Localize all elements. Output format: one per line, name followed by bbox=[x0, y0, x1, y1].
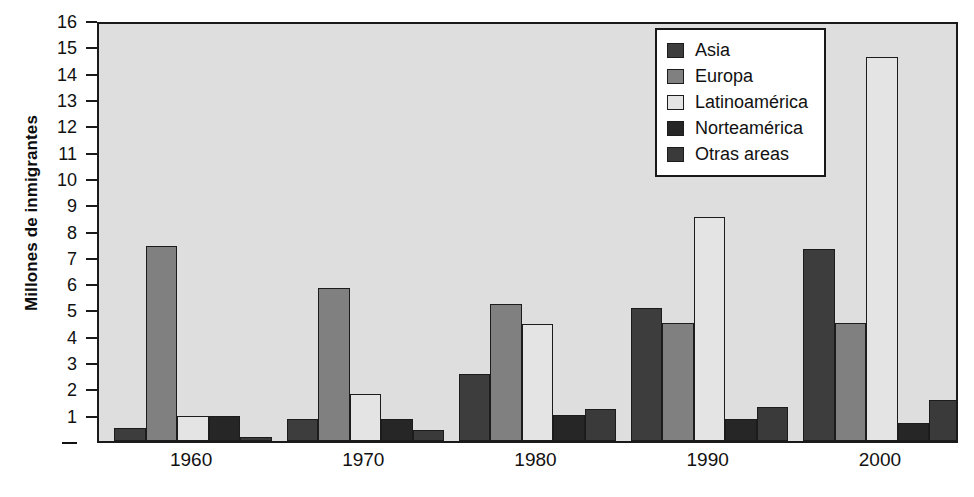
y-tick-label: 9 bbox=[67, 196, 77, 216]
y-tick-mark bbox=[86, 74, 97, 76]
legend-swatch-icon bbox=[667, 121, 684, 136]
legend-item: Otras areas bbox=[667, 141, 808, 167]
legend-item: Norteamérica bbox=[667, 115, 808, 141]
legend-swatch-icon bbox=[667, 147, 684, 162]
y-tick-mark bbox=[86, 363, 97, 365]
legend-item-label: Asia bbox=[695, 41, 730, 59]
y-tick-mark bbox=[86, 232, 97, 234]
y-tick-label: 3 bbox=[67, 354, 77, 374]
bar-chart: Millones de inmigrantes 1615141312111098… bbox=[0, 0, 974, 497]
legend-item: Latinoamérica bbox=[667, 89, 808, 115]
x-tick-label: 1990 bbox=[648, 449, 768, 471]
bar bbox=[694, 217, 726, 441]
bar bbox=[757, 407, 789, 441]
x-tick-label: 2000 bbox=[820, 449, 940, 471]
legend-swatch-icon bbox=[667, 69, 684, 84]
bar bbox=[585, 409, 617, 441]
legend: AsiaEuropaLatinoaméricaNorteaméricaOtras… bbox=[655, 28, 826, 177]
y-tick-mark bbox=[86, 126, 97, 128]
bar bbox=[553, 415, 585, 441]
bar bbox=[177, 416, 209, 441]
y-tick-mark bbox=[86, 337, 97, 339]
y-tick-mark bbox=[86, 153, 97, 155]
bar bbox=[522, 324, 554, 441]
y-axis-ticks: 16151413121110987654321 bbox=[0, 0, 97, 497]
y-tick-label: 15 bbox=[57, 38, 77, 58]
bar bbox=[631, 308, 663, 441]
y-tick-label: 16 bbox=[57, 12, 77, 32]
bar bbox=[490, 304, 522, 441]
y-tick-mark bbox=[86, 179, 97, 181]
y-tick-label: 6 bbox=[67, 275, 77, 295]
bar bbox=[287, 419, 319, 441]
y-tick-label: 14 bbox=[57, 65, 77, 85]
x-axis-labels: 19601970198019902000 bbox=[97, 449, 958, 489]
bar bbox=[898, 423, 930, 441]
bars-layer bbox=[99, 24, 956, 441]
legend-item-label: Europa bbox=[695, 67, 753, 85]
y-tick-mark bbox=[86, 100, 97, 102]
y-tick-label: 8 bbox=[67, 223, 77, 243]
legend-item: Asia bbox=[667, 37, 808, 63]
y-tick-mark bbox=[86, 21, 97, 23]
bar bbox=[725, 419, 757, 441]
y-tick-mark bbox=[86, 205, 97, 207]
bar bbox=[350, 394, 382, 441]
y-tick-mark bbox=[86, 389, 97, 391]
legend-item: Europa bbox=[667, 63, 808, 89]
y-tick-label-zero bbox=[62, 442, 77, 444]
bar bbox=[866, 57, 898, 441]
y-tick-label: 5 bbox=[67, 301, 77, 321]
bar bbox=[240, 437, 272, 441]
y-tick-mark bbox=[86, 416, 97, 418]
y-tick-mark bbox=[86, 47, 97, 49]
y-tick-label: 11 bbox=[58, 144, 77, 164]
y-tick-label: 1 bbox=[67, 407, 77, 427]
x-tick-label: 1970 bbox=[303, 449, 423, 471]
bar bbox=[662, 323, 694, 441]
y-tick-label: 13 bbox=[57, 91, 77, 111]
bar bbox=[459, 374, 491, 441]
bar bbox=[835, 323, 867, 441]
bar bbox=[209, 416, 241, 441]
plot-area bbox=[97, 22, 958, 443]
y-tick-label: 10 bbox=[57, 170, 77, 190]
y-tick-mark bbox=[86, 258, 97, 260]
y-tick-mark bbox=[86, 284, 97, 286]
bar bbox=[381, 419, 413, 441]
x-tick-label: 1960 bbox=[131, 449, 251, 471]
legend-swatch-icon bbox=[667, 95, 684, 110]
y-tick-label: 4 bbox=[67, 328, 77, 348]
bar bbox=[803, 249, 835, 441]
x-tick-label: 1980 bbox=[476, 449, 596, 471]
legend-item-label: Latinoamérica bbox=[695, 93, 808, 111]
y-tick-label: 2 bbox=[67, 380, 77, 400]
y-tick-label: 12 bbox=[57, 117, 77, 137]
y-tick-label: 7 bbox=[67, 249, 77, 269]
legend-item-label: Otras areas bbox=[695, 145, 789, 163]
bar bbox=[318, 288, 350, 441]
bar bbox=[146, 246, 178, 441]
y-tick-mark bbox=[86, 310, 97, 312]
legend-swatch-icon bbox=[667, 43, 684, 58]
bar bbox=[114, 428, 146, 441]
legend-item-label: Norteamérica bbox=[695, 119, 803, 137]
bar bbox=[929, 400, 958, 441]
bar bbox=[413, 430, 445, 441]
